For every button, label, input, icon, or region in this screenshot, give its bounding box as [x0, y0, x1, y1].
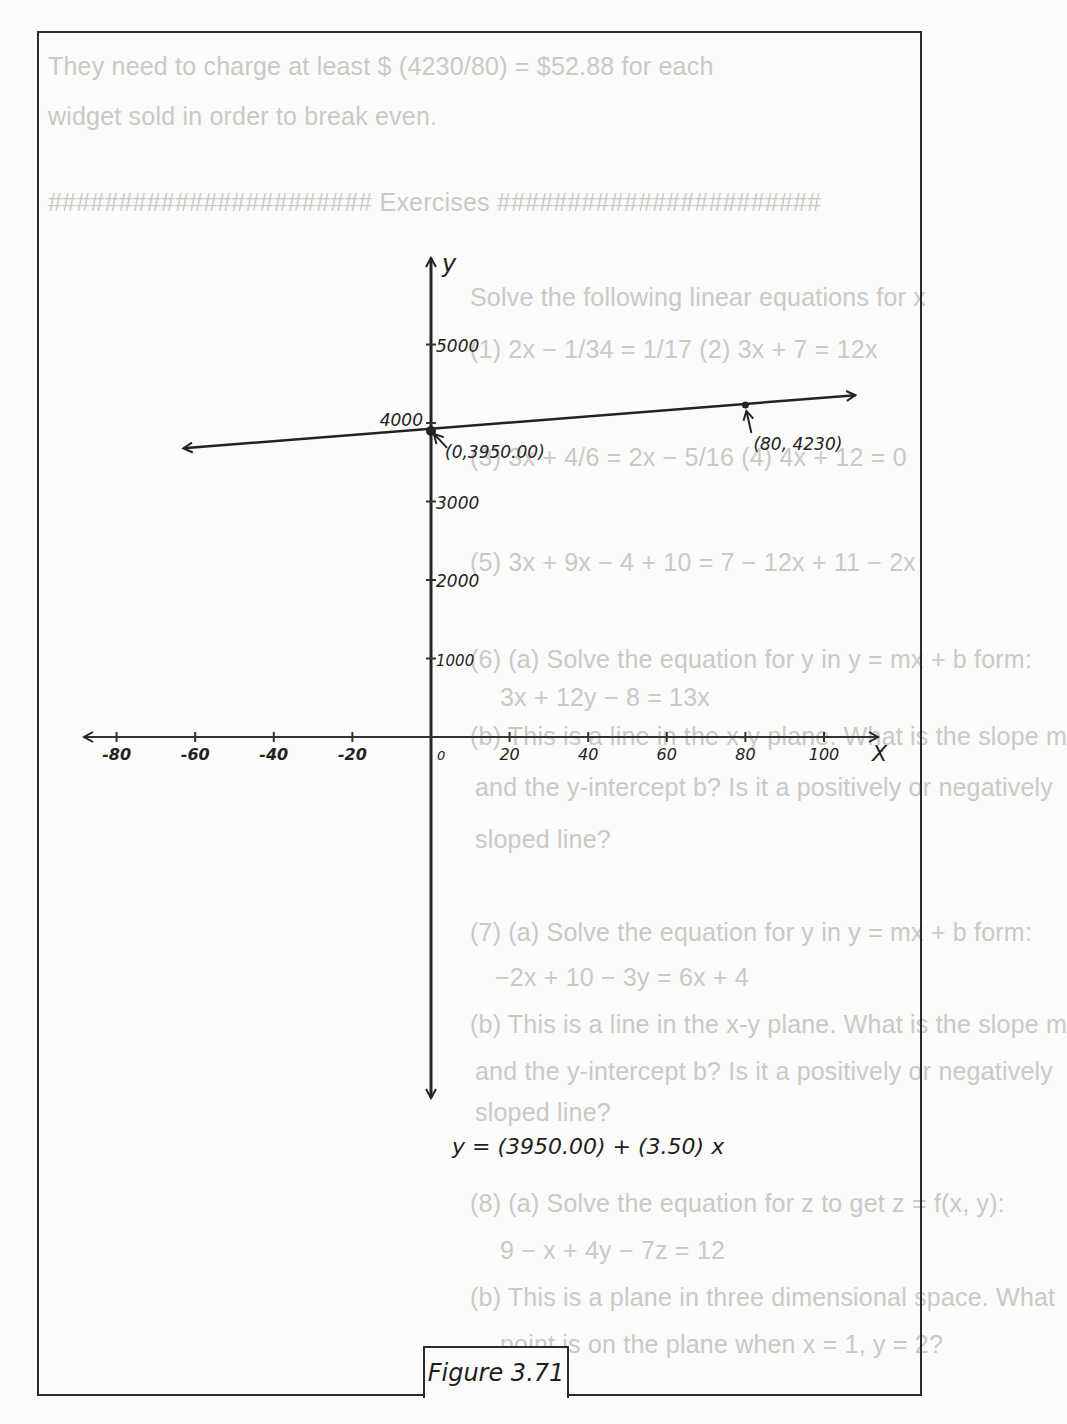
x-tick-label: 100 [809, 745, 840, 764]
data-point [742, 401, 749, 408]
callout-arrow [746, 411, 751, 433]
x-tick-label: -40 [259, 745, 288, 764]
figure-caption-text: Figure 3.71 [428, 1359, 565, 1387]
x-tick-label: 0 [437, 748, 445, 763]
x-tick-label: -20 [338, 745, 367, 764]
point-label: (80, 4230) [753, 434, 842, 454]
point-label: (0,3950.00) [445, 442, 545, 462]
x-tick-label: -80 [102, 745, 131, 764]
figure-caption: Figure 3.71 [423, 1346, 569, 1398]
y-tick-label: 2000 [436, 571, 479, 591]
x-tick-label: 40 [578, 745, 598, 764]
x-tick-label: 80 [735, 745, 755, 764]
x-tick-label: 60 [657, 745, 677, 764]
y-tick-label: 5000 [436, 336, 479, 356]
line-points: (0,3950.00)(80, 4230) [426, 401, 842, 461]
x-tick-label: 20 [499, 745, 519, 764]
x-tick-label: -60 [181, 745, 210, 764]
x-axis-label: X [871, 741, 888, 766]
y-tick-label: 4000 [380, 410, 423, 430]
y-axis-label: y [441, 250, 457, 278]
line-equation: y = (3950.00) + (3.50) x [452, 1134, 724, 1159]
y-tick-label: 3000 [436, 493, 479, 513]
y-tick-label: 1000 [436, 652, 474, 670]
